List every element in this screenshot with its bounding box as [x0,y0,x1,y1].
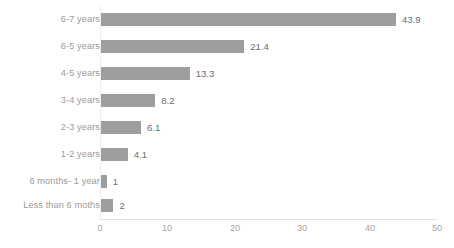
chart-row: 6-5 years 21.4 [0,33,454,60]
bar-value-label: 13.3 [196,60,215,87]
category-label: 2-3 years [61,114,100,141]
bar [100,121,141,134]
x-axis-tick-label: 10 [162,223,172,233]
x-axis-tick-label: 50 [432,223,442,233]
category-label: 4-5 years [61,60,100,87]
y-axis-line [100,6,101,219]
bar-value-label: 4.1 [134,141,147,168]
chart-row: 2-3 years 6.1 [0,114,454,141]
chart-row: 6 months- 1 year 1 [0,168,454,195]
bar [100,94,155,107]
bar [100,40,244,53]
bar [100,67,190,80]
bar-value-label: 6.1 [147,114,160,141]
chart-row: 1-2 years 4.1 [0,141,454,168]
bar [100,13,396,26]
bar-value-label: 21.4 [250,33,269,60]
chart-row: 6-7 years 43.9 [0,6,454,33]
bar-value-label: 2 [119,192,124,219]
bar-value-label: 43.9 [402,6,421,33]
category-label: 6-7 years [61,6,100,33]
chart-row: Less than 6 moths 2 [0,192,454,219]
bar [100,148,128,161]
x-axis-line [100,219,437,220]
category-label: Less than 6 moths [23,192,100,219]
bar [100,199,113,212]
category-label: 6 months- 1 year [29,168,100,195]
bar-chart: 6-7 years 43.9 6-5 years 21.4 4-5 years … [0,0,454,248]
x-axis-tick-label: 40 [365,223,375,233]
category-label: 6-5 years [61,33,100,60]
category-label: 3-4 years [61,87,100,114]
bar-value-label: 1 [113,168,118,195]
x-axis-tick-label: 20 [230,223,240,233]
chart-row: 3-4 years 8.2 [0,87,454,114]
bar-value-label: 8.2 [161,87,174,114]
category-label: 1-2 years [61,141,100,168]
bar [100,175,107,188]
chart-row: 4-5 years 13.3 [0,60,454,87]
x-axis-tick-label: 0 [97,223,102,233]
x-axis-tick-label: 30 [297,223,307,233]
